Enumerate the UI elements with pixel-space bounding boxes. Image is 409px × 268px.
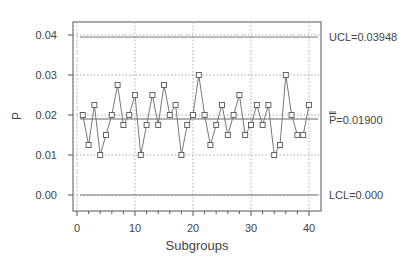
- x-tick-label: 10: [129, 222, 141, 234]
- data-point-marker: [109, 113, 114, 118]
- data-point-marker: [167, 113, 172, 118]
- data-point-marker: [150, 93, 155, 98]
- data-point-marker: [86, 143, 91, 148]
- data-point-marker: [243, 133, 248, 138]
- y-axis: 0.000.010.020.030.04: [36, 29, 73, 201]
- data-point-marker: [179, 153, 184, 158]
- data-point-marker: [225, 133, 230, 138]
- data-point-marker: [202, 113, 207, 118]
- control-chart: 010203040 0.000.010.020.030.04 UCL=0.039…: [0, 0, 409, 268]
- y-axis-label: P: [10, 112, 24, 120]
- y-tick-label: 0.04: [36, 29, 57, 41]
- data-point-marker: [272, 153, 277, 158]
- data-point-marker: [98, 153, 103, 158]
- y-tick-label: 0.02: [36, 109, 57, 121]
- data-point-marker: [260, 123, 265, 128]
- x-axis: 010203040: [74, 211, 315, 234]
- data-point-marker: [144, 123, 149, 128]
- data-point-marker: [173, 103, 178, 108]
- data-point-marker: [80, 113, 85, 118]
- data-point-marker: [185, 123, 190, 128]
- y-tick-label: 0.00: [36, 189, 57, 201]
- data-point-marker: [283, 73, 288, 78]
- lcl-label: LCL=0.000: [329, 189, 383, 201]
- x-tick-label: 40: [303, 222, 315, 234]
- x-axis-label: Subgroups: [166, 238, 229, 253]
- center-line-label: P=0.01900: [329, 114, 383, 126]
- data-point-marker: [249, 123, 254, 128]
- data-point-marker: [162, 83, 167, 88]
- y-tick-label: 0.03: [36, 69, 57, 81]
- data-point-marker: [156, 123, 161, 128]
- data-point-marker: [278, 143, 283, 148]
- data-point-marker: [301, 133, 306, 138]
- x-tick-label: 0: [74, 222, 80, 234]
- data-point-marker: [208, 143, 213, 148]
- data-point-marker: [231, 113, 236, 118]
- data-point-marker: [307, 103, 312, 108]
- data-point-marker: [220, 103, 225, 108]
- data-point-marker: [104, 133, 109, 138]
- data-point-marker: [295, 133, 300, 138]
- x-tick-label: 30: [245, 222, 257, 234]
- data-point-marker: [237, 93, 242, 98]
- data-point-marker: [92, 103, 97, 108]
- y-tick-label: 0.01: [36, 149, 57, 161]
- ucl-label: UCL=0.03948: [329, 31, 397, 43]
- data-point-marker: [138, 153, 143, 158]
- control-limit-labels: UCL=0.03948P=0.01900LCL=0.000: [329, 31, 397, 201]
- data-point-marker: [214, 123, 219, 128]
- data-point-marker: [115, 83, 120, 88]
- data-point-marker: [266, 103, 271, 108]
- data-point-marker: [127, 113, 132, 118]
- data-point-marker: [133, 93, 138, 98]
- data-point-marker: [191, 113, 196, 118]
- data-point-marker: [196, 73, 201, 78]
- data-point-marker: [254, 103, 259, 108]
- data-point-marker: [289, 113, 294, 118]
- data-point-marker: [121, 123, 126, 128]
- x-tick-label: 20: [187, 222, 199, 234]
